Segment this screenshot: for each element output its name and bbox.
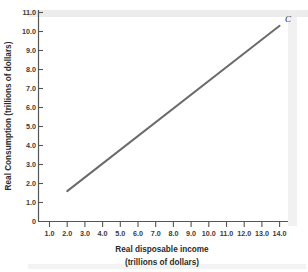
x-axis-units: (trillions of dollars) xyxy=(125,258,199,267)
x-tick-label: 13.0 xyxy=(255,229,269,238)
y-tick-label: 2.0 xyxy=(26,179,36,188)
curve-label-c: C xyxy=(285,14,292,24)
x-tick-label: 7.0 xyxy=(151,229,161,238)
y-tick-label: 4.0 xyxy=(26,141,36,150)
x-tick-label: 6.0 xyxy=(133,229,143,238)
x-tick-label: 5.0 xyxy=(115,229,125,238)
y-tick-label: 3.0 xyxy=(26,160,36,169)
x-tick-label: 10.0 xyxy=(202,229,216,238)
x-tick-label: 12.0 xyxy=(237,229,251,238)
y-tick-label: 1.0 xyxy=(26,198,36,207)
y-tick-label: 5.0 xyxy=(26,122,36,131)
chart-figure: 11.0 10.0 9.0 8.0 7.0 6.0 5.0 4.0 3.0 2.… xyxy=(0,0,308,272)
x-tick-label: 4.0 xyxy=(98,229,108,238)
x-tick-label: 14.0 xyxy=(273,229,287,238)
x-tick-label: 9.0 xyxy=(186,229,196,238)
x-tick-label: 2.0 xyxy=(62,229,72,238)
y-tick-label: 10.0 xyxy=(22,27,36,36)
y-tick-label: 8.0 xyxy=(26,65,36,74)
consumption-function-chart: 11.0 10.0 9.0 8.0 7.0 6.0 5.0 4.0 3.0 2.… xyxy=(0,0,308,272)
y-tick-labels: 11.0 10.0 9.0 8.0 7.0 6.0 5.0 4.0 3.0 2.… xyxy=(22,8,36,226)
x-axis-title: Real disposable income xyxy=(115,245,209,254)
x-tick-label: 1.0 xyxy=(45,229,55,238)
y-tick-label: 7.0 xyxy=(26,84,36,93)
x-tick-marks xyxy=(50,222,280,228)
y-tick-label: 6.0 xyxy=(26,103,36,112)
x-tick-labels: 1.0 2.0 3.0 4.0 5.0 6.0 7.0 8.0 9.0 10.0… xyxy=(45,229,287,238)
y-tick-label: 11.0 xyxy=(22,8,36,17)
x-tick-label: 11.0 xyxy=(220,229,234,238)
y-tick-label: 9.0 xyxy=(26,46,36,55)
y-tick-label: 0 xyxy=(32,217,36,226)
x-tick-label: 3.0 xyxy=(80,229,90,238)
y-tick-marks xyxy=(39,13,44,203)
x-tick-label: 8.0 xyxy=(168,229,178,238)
y-axis-title: Real Consumption (trillions of dollars) xyxy=(4,41,13,190)
consumption-function-line xyxy=(67,26,279,191)
